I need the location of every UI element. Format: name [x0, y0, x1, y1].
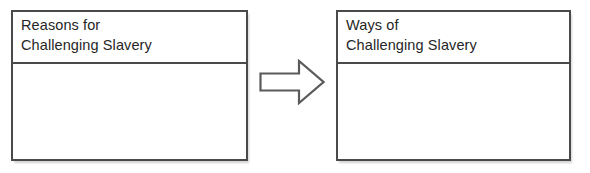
- worksheet-canvas: Reasons for Challenging Slavery Ways of …: [0, 0, 590, 173]
- ways-table-header-cell: Ways of Challenging Slavery: [338, 12, 569, 64]
- reasons-table-header-text: Reasons for Challenging Slavery: [21, 16, 246, 55]
- ways-table-body-cell[interactable]: [338, 64, 569, 159]
- reasons-table-body-text: [21, 70, 238, 71]
- reasons-table: Reasons for Challenging Slavery: [11, 10, 248, 161]
- right-block-arrow-icon: [259, 59, 325, 105]
- right-block-arrow-shape: [259, 59, 325, 105]
- ways-table: Ways of Challenging Slavery: [336, 10, 571, 161]
- reasons-table-header-cell: Reasons for Challenging Slavery: [13, 12, 246, 64]
- ways-table-body-text: [346, 70, 561, 71]
- reasons-table-body-cell[interactable]: [13, 64, 246, 159]
- ways-table-header-text: Ways of Challenging Slavery: [346, 16, 569, 55]
